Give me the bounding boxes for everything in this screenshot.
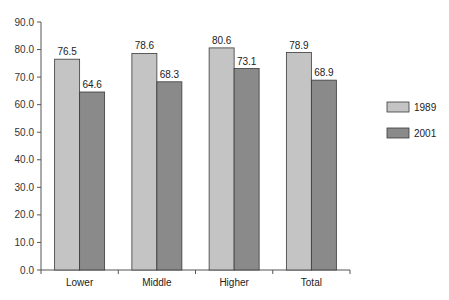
x-tick-label: Total: [301, 277, 322, 288]
y-axis: 0.010.020.030.040.050.060.070.080.090.0: [15, 17, 41, 276]
y-tick-label: 80.0: [15, 44, 35, 55]
bar-1989-lower: [55, 59, 80, 270]
bar-2001-higher: [234, 69, 259, 270]
data-label: 68.9: [314, 67, 334, 78]
bar-2001-middle: [157, 82, 182, 270]
bar-1989-middle: [132, 53, 157, 270]
bar-1989-higher: [209, 48, 234, 270]
data-label: 80.6: [212, 35, 232, 46]
y-tick-label: 70.0: [15, 72, 35, 83]
y-tick-label: 30.0: [15, 182, 35, 193]
x-tick-label: Higher: [219, 277, 249, 288]
bar-2001-total: [311, 80, 336, 270]
legend-swatch-2001: [387, 128, 409, 138]
y-tick-label: 60.0: [15, 99, 35, 110]
y-tick-label: 10.0: [15, 237, 35, 248]
x-axis: LowerMiddleHigherTotal: [41, 270, 350, 288]
data-label: 64.6: [82, 79, 102, 90]
data-label: 76.5: [57, 46, 77, 57]
bar-2001-lower: [80, 92, 105, 270]
y-tick-label: 20.0: [15, 209, 35, 220]
data-label: 73.1: [237, 56, 257, 67]
legend-swatch-1989: [387, 102, 409, 112]
data-label: 78.6: [135, 40, 155, 51]
bar-1989-total: [286, 53, 311, 270]
x-tick-label: Lower: [66, 277, 94, 288]
y-tick-label: 40.0: [15, 154, 35, 165]
bar-chart: 0.010.020.030.040.050.060.070.080.090.0 …: [0, 0, 449, 300]
x-tick-label: Middle: [142, 277, 172, 288]
y-tick-label: 50.0: [15, 127, 35, 138]
legend: 19892001: [387, 102, 437, 139]
legend-label-2001: 2001: [414, 128, 437, 139]
data-label: 68.3: [160, 69, 180, 80]
y-tick-label: 90.0: [15, 17, 35, 28]
data-label: 78.9: [289, 40, 309, 51]
y-tick-label: 0.0: [20, 265, 34, 276]
legend-label-1989: 1989: [414, 102, 437, 113]
